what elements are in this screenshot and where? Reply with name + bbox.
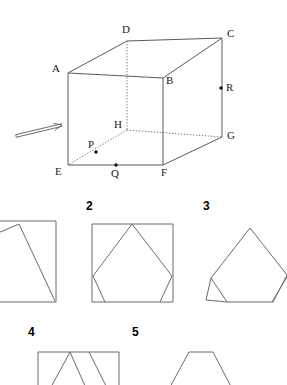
vertex-label-H: H: [114, 118, 122, 130]
option-2-number: 2: [86, 199, 93, 213]
point-label-Q: Q: [111, 167, 119, 179]
vertex-label-C: C: [227, 27, 234, 39]
cube-edge-AD: [68, 41, 127, 73]
cube-edge-FG: [163, 137, 222, 165]
cube-hidden-edge-HG: [127, 130, 222, 137]
option-5-number: 5: [132, 325, 139, 339]
cube-hidden-edge-HE: [68, 130, 127, 165]
point-marker-R: [219, 86, 222, 89]
vertex-label-F: F: [161, 166, 167, 178]
vertex-label-A: A: [52, 62, 60, 74]
labelled-cube: ABCDEFGHPQR: [16, 23, 235, 179]
point-label-R: R: [226, 81, 234, 93]
option-1-shape: [0, 221, 56, 302]
point-label-P: P: [88, 138, 94, 150]
option-4-shape: [38, 352, 119, 385]
cube-edge-DC: [127, 38, 222, 41]
geometry-figure: ABCDEFGHPQR 1 2 3 4: [0, 0, 287, 385]
cube-edge-AB: [68, 73, 163, 78]
figure-page: ABCDEFGHPQR 1 2 3 4: [0, 0, 287, 385]
option-3-shape: [206, 228, 287, 302]
vertex-label-E: E: [55, 165, 62, 177]
option-2-shape: [92, 224, 173, 302]
vertex-label-B: B: [166, 74, 173, 86]
vertex-label-D: D: [122, 23, 130, 35]
option-4-number: 4: [28, 325, 35, 339]
point-marker-P: [94, 150, 97, 153]
vertex-label-G: G: [227, 129, 235, 141]
cube-edge-BC: [163, 38, 222, 78]
option-3-number: 3: [203, 199, 210, 213]
option-5-shape: [163, 352, 238, 385]
